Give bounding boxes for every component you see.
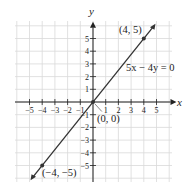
equation-label: 5x − 4y = 0: [126, 62, 175, 73]
x-tick-label: −4: [38, 106, 47, 115]
x-tick-label: −3: [51, 106, 60, 115]
y-tick-label: 5: [85, 35, 89, 44]
y-axis-label: y: [88, 5, 94, 17]
data-point-marker: [142, 37, 146, 41]
x-axis-arrow-icon: [170, 99, 176, 105]
data-point-marker: [91, 100, 95, 104]
point-label-origin: (0, 0): [97, 113, 120, 125]
x-tick-label: −5: [25, 106, 34, 115]
y-tick-label: 3: [85, 60, 89, 69]
axes: [15, 22, 176, 182]
x-axis-label: x: [176, 96, 182, 108]
y-tick-label: −5: [80, 162, 89, 171]
y-tick-label: −2: [80, 123, 89, 132]
coordinate-plane: −5−4−3−2−112345−5−4−3−2−112345 x y (4, 5…: [0, 0, 186, 190]
point-label-neg4-neg5: (−4, −5): [42, 167, 77, 179]
y-tick-label: 2: [85, 73, 89, 82]
y-tick-label: 4: [85, 47, 89, 56]
x-tick-label: −2: [63, 106, 72, 115]
y-tick-label: 1: [85, 85, 89, 94]
point-label-4-5: (4, 5): [119, 24, 142, 36]
x-tick-label: 3: [129, 106, 133, 115]
y-tick-label: −4: [80, 149, 89, 158]
x-tick-label: 4: [142, 106, 146, 115]
x-tick-label: 5: [155, 106, 159, 115]
y-tick-label: −3: [80, 136, 89, 145]
y-axis-arrow-icon: [90, 22, 96, 28]
origin-leader-line: [95, 104, 102, 112]
